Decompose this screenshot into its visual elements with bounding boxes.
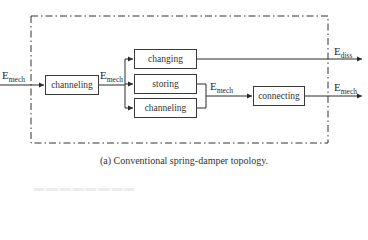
channeled-energy-label: Emech — [100, 70, 123, 84]
connecting-block: connecting — [253, 86, 305, 106]
dissipated-energy-label: Ediss — [334, 46, 352, 60]
cropped-text-remnant — [34, 188, 134, 191]
merged-energy-label: Emech — [210, 81, 233, 95]
input-energy-label: Emech — [2, 70, 25, 84]
changing-block: changing — [134, 49, 197, 69]
channeling-block: channeling — [45, 75, 99, 95]
figure-caption: (a) Conventional spring-damper topology. — [0, 155, 368, 166]
output-energy-label: Emech — [334, 82, 357, 96]
channeling-branch-block: channeling — [134, 98, 197, 118]
storing-block: storing — [134, 74, 197, 94]
